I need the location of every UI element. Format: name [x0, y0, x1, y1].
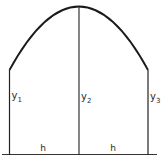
interval-label-h-left: h	[40, 143, 46, 153]
simpson-rule-diagram: y1 y2 y3 h h	[0, 0, 162, 162]
ordinate-label-y2: y2	[81, 91, 91, 105]
ordinate-label-y1: y1	[12, 90, 22, 104]
ordinate-label-y3: y3	[150, 91, 160, 105]
interval-label-h-right: h	[110, 143, 116, 153]
